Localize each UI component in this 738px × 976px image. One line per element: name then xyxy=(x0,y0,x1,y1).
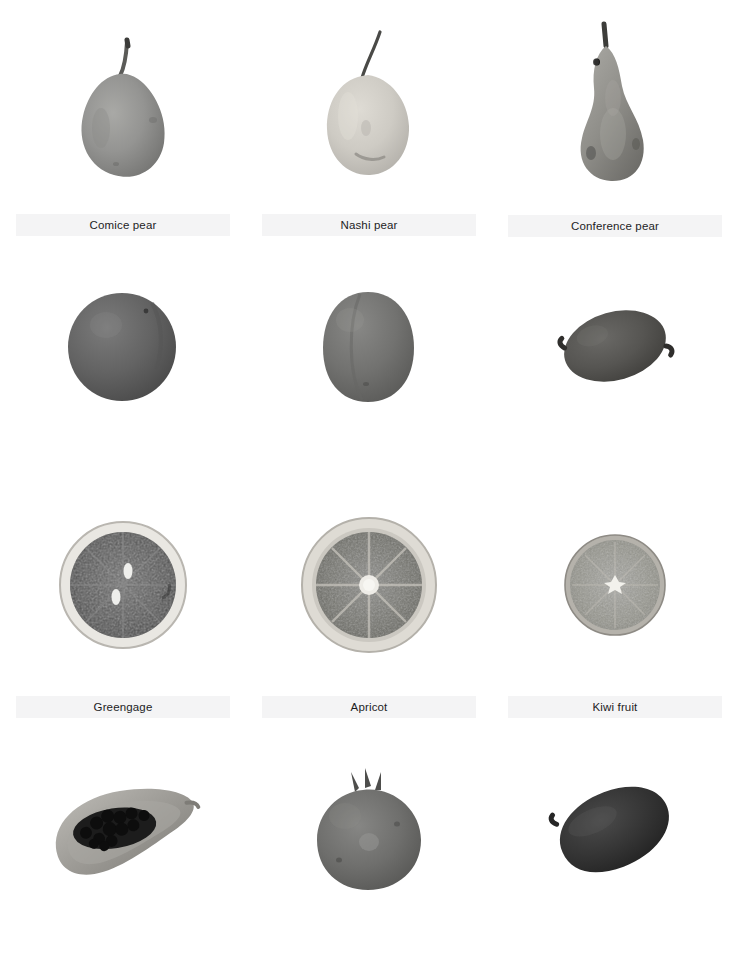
fruit-cell-blood-orange[interactable]: Blood orange xyxy=(0,486,246,722)
fruit-image-conference-pear xyxy=(492,0,738,206)
fruit-image-blood-orange xyxy=(0,486,246,684)
fruit-label-nashi-pear: Nashi pear xyxy=(262,214,476,236)
fruit-cell-nashi-pear[interactable]: Nashi pear xyxy=(246,0,492,244)
fruit-image-pomegranate xyxy=(246,722,492,938)
fruit-cell-conference-pear[interactable]: Conference pear xyxy=(492,0,738,244)
fruit-cell-pomegranate[interactable]: Pomegranate xyxy=(246,722,492,976)
fruit-cell-pink-grapefruit[interactable]: Pink grapefruit xyxy=(246,486,492,722)
fruit-image-apricot xyxy=(246,244,492,448)
fruit-image-papaya xyxy=(0,722,246,938)
caption-band: Nashi pear xyxy=(262,214,476,236)
fruit-image-kiwi-fruit xyxy=(492,244,738,448)
fruit-cell-comice-pear[interactable]: Comice pear xyxy=(0,0,246,244)
caption-band: Comice pear xyxy=(16,214,230,236)
fruit-cell-mandarin-orange[interactable]: Mandarin orange xyxy=(492,486,738,722)
fruit-image-greengage xyxy=(0,244,246,448)
fruit-image-mandarin-orange xyxy=(492,486,738,684)
fruit-image-comice-pear xyxy=(0,0,246,206)
fruit-label-conference-pear: Conference pear xyxy=(508,215,722,237)
fruit-plate: Comice pear xyxy=(0,0,738,976)
fruit-image-mango xyxy=(492,722,738,938)
fruit-cell-kiwi-fruit[interactable]: Kiwi fruit xyxy=(492,244,738,486)
caption-band: Conference pear xyxy=(508,215,722,237)
fruit-cell-apricot[interactable]: Apricot xyxy=(246,244,492,486)
fruit-cell-greengage[interactable]: Greengage xyxy=(0,244,246,486)
fruit-image-pink-grapefruit xyxy=(246,486,492,684)
fruit-cell-mango[interactable]: Mango xyxy=(492,722,738,976)
fruit-image-nashi-pear xyxy=(246,0,492,206)
fruit-cell-papaya[interactable]: Papaya xyxy=(0,722,246,976)
fruit-grid: Comice pear xyxy=(0,0,738,976)
fruit-label-comice-pear: Comice pear xyxy=(16,214,230,236)
